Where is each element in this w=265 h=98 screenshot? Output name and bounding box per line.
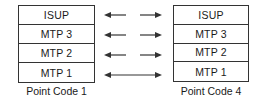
layer-mtp2-left: MTP 2 xyxy=(19,44,94,63)
layer-mtp2-right: MTP 2 xyxy=(174,44,248,63)
arrow-left-mtp3-icon xyxy=(104,31,126,39)
layer-mtp3-right: MTP 3 xyxy=(174,25,248,44)
caption-point-code-4: Point Code 4 xyxy=(168,85,254,97)
layer-isup-left: ISUP xyxy=(19,6,94,25)
layer-mtp1-right: MTP 1 xyxy=(174,62,248,81)
protocol-stack-point-code-1: ISUP MTP 3 MTP 2 MTP 1 xyxy=(18,5,95,83)
arrow-right-mtp2-icon xyxy=(140,51,162,59)
arrow-left-isup-icon xyxy=(104,11,126,19)
arrow-right-isup-icon xyxy=(140,11,162,19)
layer-mtp3-left: MTP 3 xyxy=(19,25,94,44)
layer-isup-right: ISUP xyxy=(174,6,248,25)
layer-mtp1-left: MTP 1 xyxy=(19,63,94,82)
protocol-stack-point-code-4: ISUP MTP 3 MTP 2 MTP 1 xyxy=(173,5,249,82)
arrow-right-mtp3-icon xyxy=(140,31,162,39)
caption-point-code-1: Point Code 1 xyxy=(14,85,99,97)
arrow-bidirectional-mtp1-icon xyxy=(104,71,162,79)
arrow-left-mtp2-icon xyxy=(104,51,126,59)
